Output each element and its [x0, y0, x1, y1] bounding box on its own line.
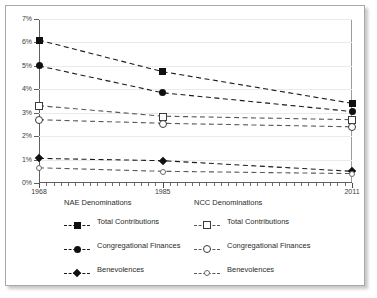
data-point-marker — [36, 62, 43, 69]
data-point-marker — [348, 123, 356, 131]
legend-item-ncc-benevolences[interactable]: Benevolences — [194, 264, 369, 288]
x-tick-minor — [243, 183, 244, 186]
x-axis-line — [39, 182, 352, 183]
data-point-marker — [159, 120, 167, 128]
x-tick-minor — [148, 183, 149, 186]
y-tick-label: 6% — [8, 38, 32, 45]
y-tick — [34, 89, 39, 90]
x-tick-minor — [257, 183, 258, 186]
x-tick-minor — [206, 183, 207, 186]
x-tick-minor — [105, 183, 106, 186]
gridline — [39, 113, 352, 114]
x-tick-minor — [345, 183, 346, 186]
open-square-icon — [203, 221, 211, 229]
x-tick-minor — [265, 183, 266, 186]
data-point-marker — [160, 169, 166, 175]
gridline — [39, 66, 352, 67]
y-tick — [34, 19, 39, 20]
x-tick-minor — [83, 183, 84, 186]
plot-wrapper: 0%1%2%3%4%5%6%7% 196819852011 — [6, 6, 366, 196]
legend-group-ncc: NCC Denominations Total Contributions Co… — [194, 198, 369, 288]
x-tick-label: 1968 — [19, 188, 59, 196]
x-tick-minor — [126, 183, 127, 186]
legend: NAE Denominations Total Contributions Co… — [6, 198, 366, 286]
gridline — [39, 89, 352, 90]
x-tick-minor — [272, 183, 273, 186]
legend-symbol — [64, 244, 90, 255]
legend-symbol — [194, 244, 220, 255]
y-tick-label: 2% — [8, 132, 32, 139]
x-tick-minor — [141, 183, 142, 186]
x-tick-minor — [177, 183, 178, 186]
x-tick-minor — [134, 183, 135, 186]
x-tick-label: 2011 — [332, 188, 372, 196]
data-point-marker — [35, 102, 43, 110]
legend-item-ncc-congregational-finances[interactable]: Congregational Finances — [194, 240, 369, 264]
y-tick-label: 3% — [8, 109, 32, 116]
filled-circle-icon — [74, 246, 81, 253]
gridline — [39, 42, 352, 43]
data-point-marker — [36, 37, 43, 44]
x-tick-minor — [308, 183, 309, 186]
x-tick-minor — [323, 183, 324, 186]
x-tick-minor — [192, 183, 193, 186]
data-point-marker — [349, 108, 356, 115]
legend-symbol — [64, 220, 90, 231]
x-tick-minor — [316, 183, 317, 186]
x-tick-minor — [112, 183, 113, 186]
x-tick-minor — [279, 183, 280, 186]
legend-label: Congregational Finances — [227, 241, 310, 251]
x-tick-minor — [68, 183, 69, 186]
y-tick-label: 7% — [8, 15, 32, 22]
x-tick-minor — [337, 183, 338, 186]
x-tick-minor — [170, 183, 171, 186]
plot-area — [39, 19, 352, 183]
legend-title-ncc: NCC Denominations — [194, 198, 369, 207]
data-point-marker — [349, 100, 356, 107]
gridline — [39, 160, 352, 161]
x-tick-minor — [294, 183, 295, 186]
legend-item-ncc-total-contributions[interactable]: Total Contributions — [194, 216, 369, 240]
y-tick-label: 5% — [8, 62, 32, 69]
x-tick-minor — [236, 183, 237, 186]
chart-frame: 0%1%2%3%4%5%6%7% 196819852011 NAE Denomi… — [5, 5, 365, 286]
y-tick — [34, 113, 39, 114]
x-tick-minor — [185, 183, 186, 186]
x-tick-minor — [119, 183, 120, 186]
y-tick-label: 0% — [8, 179, 32, 186]
x-tick-minor — [61, 183, 62, 186]
legend-label: Total Contributions — [227, 217, 289, 227]
data-point-marker — [349, 171, 355, 177]
x-tick-minor — [75, 183, 76, 186]
open-circle-small-icon — [204, 270, 210, 276]
x-tick-minor — [286, 183, 287, 186]
x-tick-minor — [221, 183, 222, 186]
x-tick-minor — [46, 183, 47, 186]
open-circle-icon — [203, 245, 211, 253]
legend-label: Total Contributions — [97, 217, 159, 227]
x-tick-minor — [54, 183, 55, 186]
y-tick-label: 1% — [8, 156, 32, 163]
x-tick-minor — [90, 183, 91, 186]
data-point-marker — [159, 68, 166, 75]
y-tick — [34, 136, 39, 137]
legend-symbol — [64, 268, 90, 279]
x-tick-minor — [228, 183, 229, 186]
x-tick-minor — [330, 183, 331, 186]
x-tick-minor — [301, 183, 302, 186]
filled-square-icon — [74, 222, 81, 229]
legend-label: Congregational Finances — [97, 241, 180, 251]
x-tick-minor — [97, 183, 98, 186]
x-tick-minor — [250, 183, 251, 186]
legend-symbol — [194, 220, 220, 231]
gridline — [39, 136, 352, 137]
y-tick-label: 4% — [8, 85, 32, 92]
x-tick-minor — [199, 183, 200, 186]
gridline — [39, 19, 352, 20]
x-tick-label: 1985 — [143, 188, 183, 196]
legend-label: Benevolences — [97, 265, 144, 275]
x-tick-minor — [214, 183, 215, 186]
x-tick-minor — [155, 183, 156, 186]
filled-diamond-icon — [73, 269, 81, 277]
legend-symbol — [194, 268, 220, 279]
